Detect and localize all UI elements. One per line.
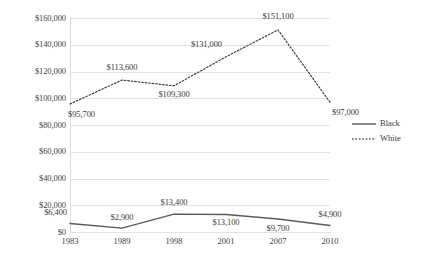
y-axis: $160,000 $140,000 $120,000 $100,000 $80,…	[0, 0, 66, 261]
legend-item-white[interactable]: White	[352, 131, 422, 146]
y-axis-tick: $140,000	[4, 40, 66, 49]
x-axis: 198319891998200120072010	[70, 236, 330, 252]
data-label: $113,600	[107, 63, 138, 72]
y-axis-tick: $160,000	[4, 14, 66, 23]
plot-area: $6,400$2,900$13,400$13,100$9,700$4,900$9…	[70, 18, 330, 232]
y-axis-tick: $40,000	[4, 174, 66, 183]
data-label: $4,900	[319, 210, 342, 219]
x-axis-tick: 1983	[46, 236, 94, 246]
data-label: $13,100	[213, 218, 240, 227]
data-label: $95,700	[68, 110, 95, 119]
y-axis-tick: $100,000	[4, 94, 66, 103]
legend-swatch-solid-icon	[352, 120, 376, 128]
line-chart: $160,000 $140,000 $120,000 $100,000 $80,…	[0, 0, 424, 261]
x-axis-tick: 1989	[98, 236, 146, 246]
series-line-black	[70, 214, 330, 228]
series-lines	[70, 18, 330, 232]
legend-label: White	[380, 134, 401, 143]
data-label: $131,000	[191, 40, 222, 49]
y-axis-tick: $80,000	[4, 121, 66, 130]
gridline	[70, 232, 330, 233]
legend-label: Black	[380, 119, 400, 128]
chart-legend: Black White	[352, 116, 422, 146]
x-axis-tick: 1998	[150, 236, 198, 246]
legend-swatch-dotted-icon	[352, 135, 376, 143]
data-label: $6,400	[44, 208, 67, 217]
x-axis-tick: 2010	[306, 236, 354, 246]
data-label: $2,900	[111, 213, 134, 222]
data-label: $13,400	[161, 198, 188, 207]
legend-item-black[interactable]: Black	[352, 116, 422, 131]
data-label: $151,100	[262, 12, 293, 21]
data-label: $109,300	[158, 90, 189, 99]
data-label: $9,700	[267, 224, 290, 233]
x-axis-tick: 2007	[254, 236, 302, 246]
y-axis-tick: $60,000	[4, 147, 66, 156]
y-axis-tick: $120,000	[4, 67, 66, 76]
x-axis-tick: 2001	[202, 236, 250, 246]
